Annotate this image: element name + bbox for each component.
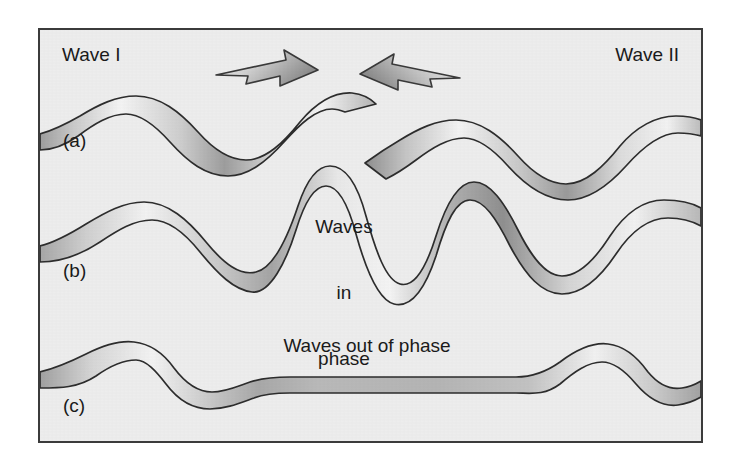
panel-b-label: (b): [63, 260, 86, 281]
wave-interference-figure: Wave I Wave II (a) (b) (c) Waves in phas…: [0, 0, 734, 466]
in-phase-annotation: Waves in phase: [290, 172, 398, 414]
panel-c-label: (c): [63, 395, 85, 416]
out-of-phase-annotation: Waves out of phase: [252, 335, 482, 356]
arrow-right-icon: [216, 50, 318, 86]
in-phase-annotation-line-2: in: [290, 282, 398, 304]
wave-two-label: Wave II: [615, 44, 679, 65]
panel-a-label: (a): [63, 130, 86, 151]
arrow-left-icon: [360, 54, 460, 90]
wave-two-ribbon: [365, 116, 701, 200]
in-phase-annotation-line-1: Waves: [290, 216, 398, 238]
wave-one-label: Wave I: [62, 44, 120, 65]
figure-frame: Wave I Wave II (a) (b) (c) Waves in phas…: [38, 28, 703, 443]
wave-one-ribbon: [40, 93, 376, 176]
